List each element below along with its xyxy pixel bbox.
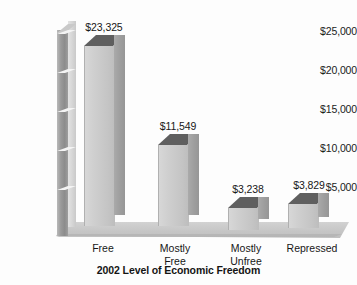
y-axis-wall-front-face [57, 30, 68, 236]
bar-mostly-unfree-front-face [228, 208, 259, 230]
x-category-label-free: Free [72, 242, 134, 255]
x-category-label-free-line1: Free [72, 242, 134, 255]
y-tick-label-15000: $15,000 [301, 103, 357, 115]
bar-value-label-mostly-unfree: $3,238 [219, 183, 277, 195]
bar-free-side-face [114, 35, 125, 215]
y-axis-wall-side-face [68, 21, 76, 227]
bar-free-front-face [84, 46, 115, 226]
x-category-label-mostly-unfree-line1: Mostly [214, 242, 278, 255]
y-tick-label-20000: $20,000 [301, 64, 357, 76]
x-category-label-mostly-free-line1: Mostly [144, 242, 206, 255]
bar-value-label-mostly-free: $11,549 [148, 120, 208, 132]
y-tick-label-25000: $25,000 [301, 25, 357, 37]
chart-floor-front-edge [56, 234, 342, 237]
x-category-label-repressed: Repressed [276, 242, 348, 255]
x-category-label-repressed-line1: Repressed [276, 242, 348, 255]
bar-value-label-free: $23,325 [74, 21, 134, 33]
economic-freedom-bar-chart: $25,000 $20,000 $15,000 $10,000 $5,000 $… [0, 0, 357, 285]
bar-mostly-free-front-face [158, 145, 189, 226]
x-axis-title: 2002 Level of Economic Freedom [0, 264, 357, 276]
bar-mostly-free-side-face [188, 134, 199, 215]
y-axis-wall [57, 21, 76, 236]
bar-repressed-front-face [288, 204, 319, 228]
plot-area: $25,000 $20,000 $15,000 $10,000 $5,000 $… [0, 0, 357, 285]
bar-value-label-repressed: $3,829 [280, 179, 338, 191]
y-tick-label-10000: $10,000 [301, 142, 357, 154]
bar-mostly-unfree-side-face [258, 197, 269, 219]
bar-repressed-side-face [318, 193, 329, 217]
